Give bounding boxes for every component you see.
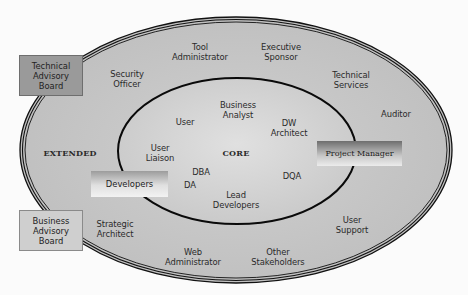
role-user: User	[176, 117, 195, 127]
role-other-stakeholders: Other Stakeholders	[251, 247, 304, 267]
role-tool-administrator: Tool Administrator	[172, 42, 228, 62]
role-business-analyst: Business Analyst	[220, 100, 256, 120]
role-user-liaison: User Liaison	[146, 143, 175, 163]
role-auditor: Auditor	[381, 109, 411, 119]
role-lead-developers: Lead Developers	[213, 190, 259, 210]
developers-box: Developers	[91, 171, 168, 197]
technical-advisory-board-box: Technical Advisory Board	[19, 55, 83, 96]
role-dqa: DQA	[283, 171, 301, 181]
role-web-administrator: Web Administrator	[165, 247, 221, 267]
project-manager-box: Project Manager	[317, 141, 402, 166]
role-security-officer: Security Officer	[110, 69, 144, 89]
role-dba: DBA	[192, 167, 210, 177]
role-dw-architect: DW Architect	[271, 118, 308, 138]
extended-ring-label: EXTENDED	[43, 148, 96, 158]
role-technical-services: Technical Services	[332, 70, 370, 90]
core-ring-label: CORE	[223, 148, 250, 158]
role-executive-sponsor: Executive Sponsor	[261, 42, 301, 62]
business-advisory-board-box: Business Advisory Board	[19, 210, 83, 251]
role-strategic-architect: Strategic Architect	[97, 219, 134, 239]
role-user-support: User Support	[336, 215, 368, 235]
role-da: DA	[184, 180, 196, 190]
